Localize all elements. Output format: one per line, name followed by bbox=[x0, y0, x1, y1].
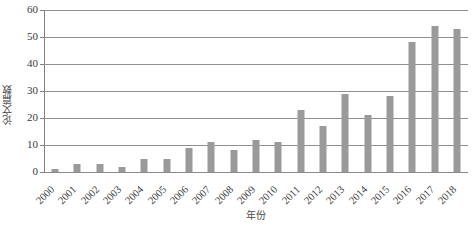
x-tick-label-2010: 2010 bbox=[257, 184, 280, 207]
bar-2006[interactable] bbox=[186, 148, 193, 172]
x-tick-label-2013: 2013 bbox=[324, 184, 347, 207]
bar-2007[interactable] bbox=[208, 142, 215, 172]
bar-2008[interactable] bbox=[230, 150, 237, 172]
bar-2011[interactable] bbox=[297, 110, 304, 172]
bar-2004[interactable] bbox=[141, 159, 148, 173]
bar-2002[interactable] bbox=[96, 164, 103, 172]
x-tick-label-2011: 2011 bbox=[279, 184, 301, 206]
bar-2003[interactable] bbox=[119, 167, 126, 172]
x-tick-label-2017: 2017 bbox=[413, 184, 436, 207]
bar-slot bbox=[334, 10, 356, 172]
bar-slot bbox=[200, 10, 222, 172]
bar-slot bbox=[446, 10, 468, 172]
bar-slot bbox=[178, 10, 200, 172]
bar-slot bbox=[289, 10, 311, 172]
bar-2018[interactable] bbox=[453, 29, 460, 172]
bar-2013[interactable] bbox=[342, 94, 349, 172]
bar-2016[interactable] bbox=[409, 42, 416, 172]
plot-area: 0102030405060 bbox=[44, 10, 468, 172]
bar-chart: 论文篇数 0102030405060 200020012002200320042… bbox=[0, 0, 475, 231]
bar-2014[interactable] bbox=[364, 115, 371, 172]
bar-slot bbox=[66, 10, 88, 172]
bar-2017[interactable] bbox=[431, 26, 438, 172]
bar-2010[interactable] bbox=[275, 142, 282, 172]
bar-2012[interactable] bbox=[319, 126, 326, 172]
y-tick-label-10: 10 bbox=[27, 139, 38, 150]
x-tick-label-2000: 2000 bbox=[34, 184, 57, 207]
y-tick-label-30: 30 bbox=[27, 85, 38, 96]
x-tick-label-2003: 2003 bbox=[101, 184, 124, 207]
x-tick-label-2009: 2009 bbox=[235, 184, 258, 207]
y-axis-title: 论文篇数 bbox=[0, 55, 16, 155]
x-axis-tick-labels: 2000200120022003200420052006200720082009… bbox=[44, 173, 468, 209]
bar-slot bbox=[423, 10, 445, 172]
bar-slot bbox=[133, 10, 155, 172]
x-tick-label-2018: 2018 bbox=[436, 184, 459, 207]
bar-2001[interactable] bbox=[74, 164, 81, 172]
bar-2015[interactable] bbox=[386, 96, 393, 172]
bar-slot bbox=[267, 10, 289, 172]
bar-slot bbox=[312, 10, 334, 172]
bar-slot bbox=[111, 10, 133, 172]
x-axis-title: 年份 bbox=[44, 210, 468, 222]
y-tick-label-20: 20 bbox=[27, 112, 38, 123]
x-tick-label-2006: 2006 bbox=[168, 184, 191, 207]
bar-2000[interactable] bbox=[52, 169, 59, 172]
bar-slot bbox=[223, 10, 245, 172]
bar-slot bbox=[245, 10, 267, 172]
x-tick-label-2007: 2007 bbox=[190, 184, 213, 207]
x-tick-label-2004: 2004 bbox=[123, 184, 146, 207]
bar-slot bbox=[44, 10, 66, 172]
bar-slot bbox=[89, 10, 111, 172]
y-tick-label-60: 60 bbox=[27, 4, 38, 15]
bar-slot bbox=[356, 10, 378, 172]
x-tick-label-2001: 2001 bbox=[56, 184, 79, 207]
x-tick-label-2012: 2012 bbox=[302, 184, 325, 207]
x-tick-label-2015: 2015 bbox=[369, 184, 392, 207]
y-tick-label-40: 40 bbox=[27, 58, 38, 69]
y-tick-label-50: 50 bbox=[27, 31, 38, 42]
bar-slot bbox=[379, 10, 401, 172]
bar-slot bbox=[156, 10, 178, 172]
bar-2009[interactable] bbox=[252, 140, 259, 172]
x-tick-label-2014: 2014 bbox=[346, 184, 369, 207]
y-tick-label-0: 0 bbox=[33, 166, 39, 177]
x-tick-label-2005: 2005 bbox=[146, 184, 169, 207]
bar-slot bbox=[401, 10, 423, 172]
bar-2005[interactable] bbox=[163, 159, 170, 173]
x-tick-label-2002: 2002 bbox=[79, 184, 102, 207]
x-tick-label-2008: 2008 bbox=[212, 184, 235, 207]
bars-series bbox=[44, 10, 468, 172]
x-tick-label-2016: 2016 bbox=[391, 184, 414, 207]
